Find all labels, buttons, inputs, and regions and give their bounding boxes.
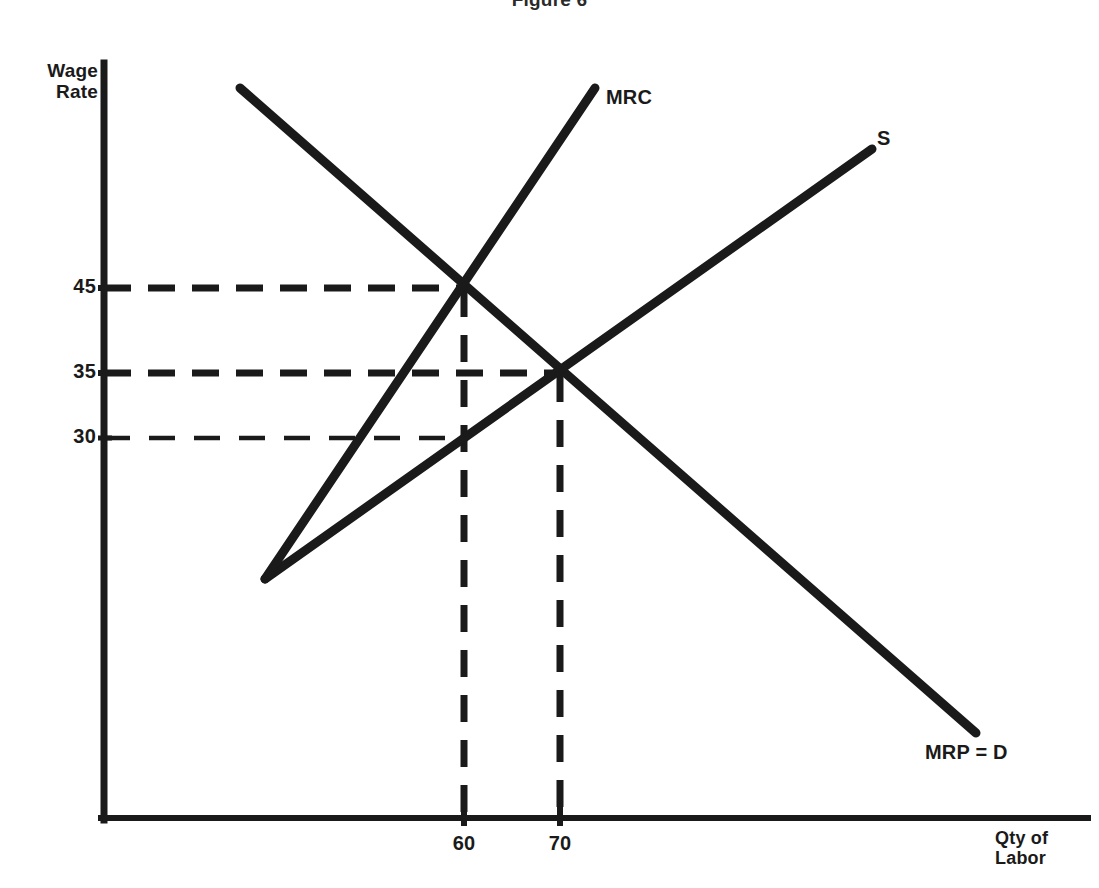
curve-label-mrc: MRC	[606, 86, 652, 108]
x-tick-label-70: 70	[530, 832, 590, 854]
curve-label-mrp-demand: MRP = D	[925, 741, 1008, 763]
curve-supply	[265, 149, 872, 579]
curve-label-supply: S	[877, 127, 891, 149]
y-axis-title: Wage Rate	[38, 60, 98, 103]
curve-mrp-demand	[240, 88, 976, 733]
y-tick-label-30: 30	[52, 425, 96, 447]
y-tick-label-45: 45	[52, 275, 96, 297]
economics-figure: Figure 6 Wage Rate Qty of Labor 45 35	[0, 0, 1099, 888]
x-axis-title: Qty of Labor	[995, 828, 1048, 868]
curve-mrc	[265, 88, 595, 579]
y-tick-label-35: 35	[52, 360, 96, 382]
x-tick-label-60: 60	[434, 832, 494, 854]
